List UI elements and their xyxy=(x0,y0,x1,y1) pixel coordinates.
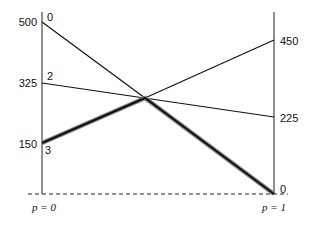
line-1-upper xyxy=(145,40,274,98)
line-label-2: 2 xyxy=(47,70,53,82)
x-label-p0: p = 0 xyxy=(31,201,56,213)
line-label-0: 0 xyxy=(47,11,53,23)
tick-right-225: 225 xyxy=(280,112,298,124)
tick-left-500: 500 xyxy=(19,16,37,28)
line-2 xyxy=(42,83,274,117)
tick-left-325: 325 xyxy=(19,77,37,89)
chart: 500 325 150 450 225 0 2 3 0 p = 0 p = 1 xyxy=(0,0,312,227)
x-label-p1: p = 1 xyxy=(261,201,286,213)
tick-right-450: 450 xyxy=(280,35,298,47)
line-label-3: 3 xyxy=(45,144,51,156)
line-0-upper xyxy=(42,22,145,98)
end-label-0: 0 xyxy=(280,183,286,195)
tick-left-150: 150 xyxy=(19,138,37,150)
